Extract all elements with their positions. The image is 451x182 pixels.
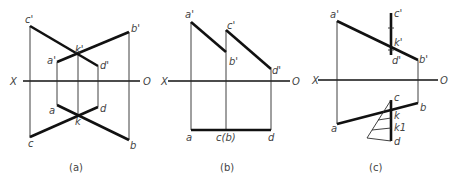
label-c: c xyxy=(394,92,400,103)
label-a: a xyxy=(49,105,55,116)
axis-o-label: O xyxy=(292,76,300,87)
label-b-prime: b' xyxy=(419,54,428,65)
label-d-prime: d' xyxy=(100,60,109,71)
label-d: d xyxy=(268,132,275,143)
caption-c: (c) xyxy=(369,162,382,173)
axis-o-label: O xyxy=(143,76,151,87)
projection-diagrams: c' b' k' a' d' X O a d k c b (a) a' c' b… xyxy=(0,0,451,182)
label-c-prime: c' xyxy=(25,14,33,25)
label-k1: k1 xyxy=(394,122,406,133)
axis-x-label: X xyxy=(311,75,320,86)
label-b: b xyxy=(420,102,426,113)
label-b: b xyxy=(130,140,136,151)
label-a-prime: a' xyxy=(330,9,339,20)
label-c: c xyxy=(28,138,34,149)
label-k-prime: k' xyxy=(394,37,403,48)
caption-a: (a) xyxy=(69,162,83,173)
label-b-prime: b' xyxy=(131,23,140,34)
label-d: d xyxy=(394,136,401,147)
axis-o-label: O xyxy=(440,75,448,86)
label-b-prime: b' xyxy=(229,56,238,67)
label-c-b: c(b) xyxy=(216,132,236,143)
panel-b: a' c' b' d' X O a c(b) d (b) xyxy=(160,9,300,173)
axis-x-label: X xyxy=(9,76,18,87)
panel-a: c' b' k' a' d' X O a d k c b (a) xyxy=(9,14,151,173)
label-d-prime: d' xyxy=(392,55,401,66)
label-a-prime: a' xyxy=(185,9,194,20)
panel-c: a' c' k' d' b' X O c b a k k1 d (c) xyxy=(311,8,448,173)
caption-b: (b) xyxy=(220,162,234,173)
label-c-prime: c' xyxy=(227,20,235,31)
label-c-prime: c' xyxy=(394,8,402,19)
label-d: d xyxy=(100,103,107,114)
label-a-prime: a' xyxy=(47,55,56,66)
axis-x-label: X xyxy=(160,76,169,87)
label-a: a xyxy=(186,132,192,143)
label-k: k xyxy=(394,110,401,121)
label-a: a xyxy=(331,123,337,134)
label-d-prime: d' xyxy=(272,65,281,76)
label-k-prime: k' xyxy=(75,44,84,55)
